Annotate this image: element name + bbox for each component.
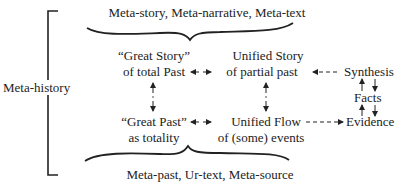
diagram-canvas: Unified Story (dashed, arrow pointing le…: [0, 0, 404, 191]
bottom-brace: [85, 146, 289, 161]
top-brace: [87, 23, 293, 40]
top-label: Meta-story, Meta-narrative, Meta-text: [109, 6, 306, 20]
facts-node: Facts: [354, 91, 381, 105]
unified-flow-line2: of (some) events: [218, 131, 305, 145]
evidence-node: Evidence: [346, 115, 394, 129]
bottom-label: Meta-past, Ur-text, Meta-source: [126, 168, 293, 182]
great-past-line1: “Great Past”: [121, 115, 186, 129]
synthesis-node: Synthesis: [344, 65, 394, 79]
meta-history-label: Meta-history: [3, 81, 70, 95]
unified-flow-line1: Unified Flow: [231, 115, 301, 129]
unified-story-line1: Unified Story: [232, 49, 303, 63]
great-story-line2: of total Past: [123, 65, 185, 79]
great-story-line1: “Great Story”: [118, 49, 190, 63]
great-past-line2: as totality: [129, 131, 180, 145]
unified-story-line2: of partial past: [226, 65, 297, 79]
